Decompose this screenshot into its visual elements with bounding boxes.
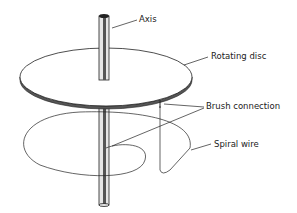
axis-upper [99,14,109,80]
label-rotating-disc: Rotating disc [211,52,266,61]
spiral-potentiometer-diagram: Axis Rotating disc Brush connection Spir… [0,0,297,213]
label-brush-connection: Brush connection [206,102,280,111]
axis-lower [99,101,109,207]
label-spiral-wire: Spiral wire [214,140,259,149]
label-axis: Axis [139,15,157,24]
